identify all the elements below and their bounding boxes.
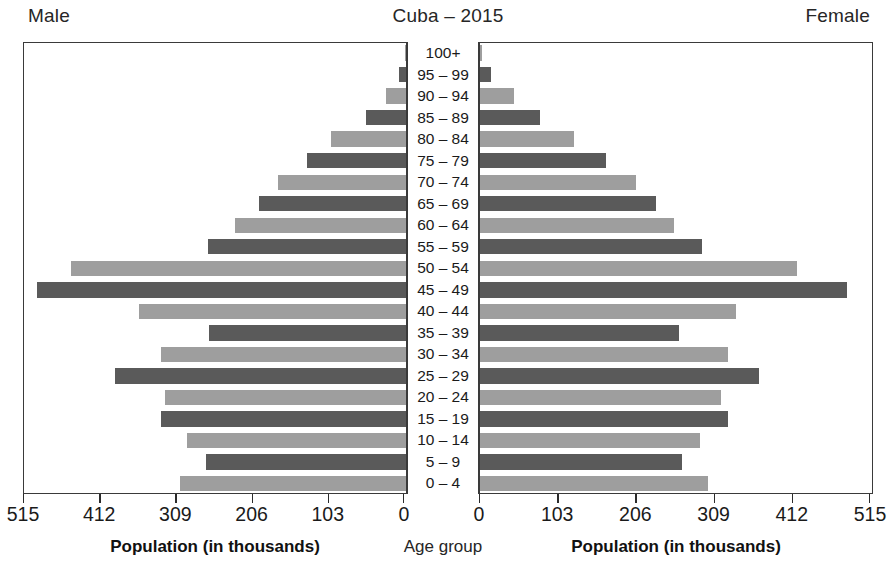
bar bbox=[480, 67, 491, 82]
age-group-label: 75 – 79 bbox=[408, 150, 478, 172]
axis-tick bbox=[23, 494, 24, 503]
age-group-label: 45 – 49 bbox=[408, 279, 478, 301]
bar-row bbox=[480, 323, 872, 345]
age-group-label: 40 – 44 bbox=[408, 300, 478, 322]
axis-tick bbox=[479, 494, 480, 503]
age-group-label: 25 – 29 bbox=[408, 365, 478, 387]
bar-row bbox=[24, 409, 406, 431]
bar-row bbox=[480, 344, 872, 366]
bar bbox=[161, 347, 406, 362]
bar-row bbox=[24, 194, 406, 216]
bar-row bbox=[24, 108, 406, 130]
axis-tick-label: 515 bbox=[7, 503, 40, 526]
age-group-label: 60 – 64 bbox=[408, 214, 478, 236]
age-group-label: 90 – 94 bbox=[408, 85, 478, 107]
bar bbox=[480, 433, 700, 448]
bar bbox=[37, 282, 406, 297]
bar-row bbox=[24, 172, 406, 194]
age-group-label: 100+ bbox=[408, 42, 478, 64]
bar bbox=[480, 88, 514, 103]
bar bbox=[480, 347, 728, 362]
bar bbox=[480, 261, 797, 276]
bar-row bbox=[480, 237, 872, 259]
age-group-label: 55 – 59 bbox=[408, 236, 478, 258]
bar-row bbox=[24, 452, 406, 474]
bar bbox=[405, 45, 406, 60]
bar-row bbox=[480, 280, 872, 302]
age-group-label: 85 – 89 bbox=[408, 107, 478, 129]
axis-tick bbox=[175, 494, 176, 503]
bar bbox=[480, 110, 540, 125]
bar bbox=[480, 454, 682, 469]
age-group-label: 95 – 99 bbox=[408, 64, 478, 86]
bar bbox=[307, 153, 406, 168]
bar-row bbox=[480, 301, 872, 323]
bar-row bbox=[24, 129, 406, 151]
female-bar-panel bbox=[479, 42, 873, 494]
bar-row bbox=[24, 323, 406, 345]
bar-row bbox=[24, 430, 406, 452]
axis-tick bbox=[99, 494, 100, 503]
bar-row bbox=[24, 215, 406, 237]
axis-tick bbox=[252, 494, 253, 503]
bar-row bbox=[24, 344, 406, 366]
bar bbox=[71, 261, 406, 276]
bar bbox=[480, 325, 679, 340]
bar bbox=[206, 454, 406, 469]
axis-tick bbox=[557, 494, 558, 503]
bar-row bbox=[480, 387, 872, 409]
bar-row bbox=[480, 473, 872, 494]
bar bbox=[180, 476, 406, 491]
age-group-label: 0 – 4 bbox=[408, 472, 478, 494]
bar-row bbox=[480, 65, 872, 87]
bar bbox=[187, 433, 406, 448]
bar bbox=[480, 196, 656, 211]
male-bar-panel bbox=[23, 42, 407, 494]
bar bbox=[480, 411, 728, 426]
bar-row bbox=[480, 258, 872, 280]
axis-tick bbox=[714, 494, 715, 503]
bar bbox=[386, 88, 406, 103]
age-group-label: 50 – 54 bbox=[408, 257, 478, 279]
bar-row bbox=[480, 108, 872, 130]
bar-row bbox=[480, 129, 872, 151]
bar-row bbox=[24, 151, 406, 173]
age-group-label: 5 – 9 bbox=[408, 451, 478, 473]
bar bbox=[165, 390, 406, 405]
bar bbox=[209, 325, 406, 340]
bar-row bbox=[24, 280, 406, 302]
bar-row bbox=[24, 387, 406, 409]
age-group-caption: Age group bbox=[395, 537, 491, 557]
bar bbox=[480, 390, 721, 405]
bar bbox=[480, 304, 736, 319]
age-group-label: 65 – 69 bbox=[408, 193, 478, 215]
axis-tick-label: 206 bbox=[235, 503, 268, 526]
axis-tick bbox=[328, 494, 329, 503]
bar-row bbox=[480, 43, 872, 65]
bar bbox=[399, 67, 406, 82]
bar-row bbox=[480, 86, 872, 108]
bar bbox=[480, 218, 674, 233]
female-axis-caption: Population (in thousands) bbox=[479, 537, 873, 557]
bar-row bbox=[480, 366, 872, 388]
axis-tick-label: 206 bbox=[619, 503, 652, 526]
bar-row bbox=[24, 86, 406, 108]
bar bbox=[278, 175, 406, 190]
axis-tick bbox=[635, 494, 636, 503]
chart-header: Male Cuba – 2015 Female bbox=[0, 0, 896, 40]
axis-tick bbox=[403, 494, 404, 503]
bar bbox=[480, 282, 847, 297]
age-group-label: 70 – 74 bbox=[408, 171, 478, 193]
female-bar-rows bbox=[480, 43, 872, 493]
bar-row bbox=[480, 151, 872, 173]
bar bbox=[480, 175, 636, 190]
bar-row bbox=[24, 237, 406, 259]
bar-row bbox=[480, 215, 872, 237]
age-group-label: 20 – 24 bbox=[408, 386, 478, 408]
bar-row bbox=[480, 452, 872, 474]
axis-tick bbox=[869, 494, 870, 503]
bar bbox=[366, 110, 406, 125]
bar bbox=[331, 131, 406, 146]
male-axis-caption: Population (in thousands) bbox=[23, 537, 407, 557]
axis-tick bbox=[792, 494, 793, 503]
